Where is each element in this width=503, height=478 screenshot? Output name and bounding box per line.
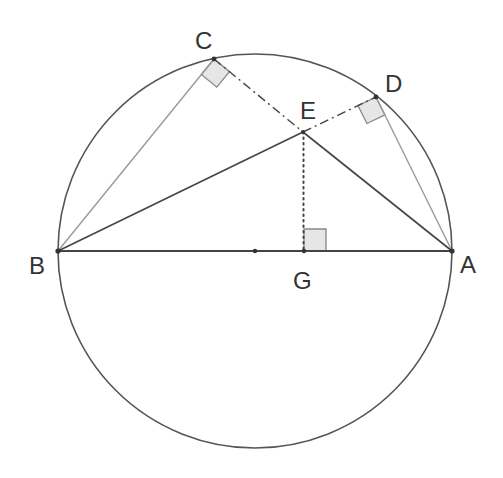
segment-bc [58,59,214,251]
right-angle-marker-g [304,229,326,251]
label-c: C [195,27,212,54]
right-angle-marker-d [358,97,385,124]
label-g: G [293,267,312,294]
label-d: D [385,70,402,97]
diagram-svg: A B C D E G [0,0,503,478]
right-angle-marker-c [201,59,229,87]
point-g [302,249,306,253]
point-c [212,57,217,62]
point-d [374,95,379,100]
center-point [253,249,257,253]
label-e: E [300,97,316,124]
label-a: A [460,251,476,278]
label-b: B [29,252,45,279]
point-a [449,248,454,253]
point-e [301,130,305,134]
point-b [55,248,60,253]
segment-be [58,132,303,251]
segment-ad [376,97,452,251]
geometry-diagram: A B C D E G [0,0,503,478]
